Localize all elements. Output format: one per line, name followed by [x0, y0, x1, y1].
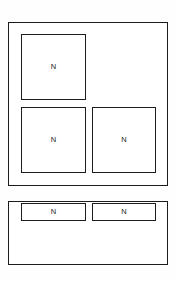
cell-label-n: N: [121, 208, 127, 216]
upper-cell-1: N: [21, 34, 86, 100]
cell-label-n: N: [121, 136, 127, 144]
upper-cell-3: N: [92, 107, 156, 173]
upper-region: N N N: [8, 22, 168, 186]
lower-cell-1: N: [21, 203, 86, 221]
lower-cell-2: N: [92, 203, 156, 221]
cell-label-n: N: [51, 208, 57, 216]
upper-cell-2: N: [21, 107, 86, 173]
diagram-canvas: N N N N N: [0, 0, 175, 282]
cell-label-n: N: [51, 63, 57, 71]
cell-label-n: N: [51, 136, 57, 144]
lower-region: N N: [8, 201, 168, 265]
